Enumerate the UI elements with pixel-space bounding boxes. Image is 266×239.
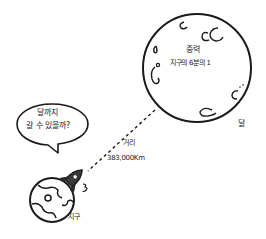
diagram-canvas [0,0,266,239]
rocket-exhaust-icon [83,184,87,192]
moon-crater [239,86,241,88]
moon-circle [143,14,251,122]
moon-gravity-title: 중력 [186,46,200,54]
speech-bubble-line2: 갈 수 있을까? [26,122,70,130]
distance-label: 거리 [123,140,135,147]
earth-label: 지구 [68,214,80,221]
moon-label: 달 [238,120,245,128]
moon [143,14,251,122]
moon-crater [242,84,244,86]
distance-value: 383,000Km [107,155,145,162]
speech-bubble-line1: 달까지 [37,109,58,117]
moon-gravity-value: 지구의 6분의 1 [170,60,211,67]
